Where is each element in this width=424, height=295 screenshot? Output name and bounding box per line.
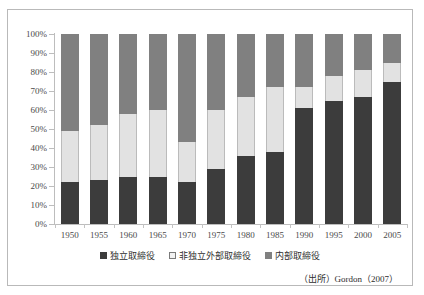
y-axis-label: 100% [26,29,47,39]
bar-segment-nonindependent-outside [90,125,108,180]
bar-segment-nonindependent-outside [354,70,372,97]
y-tick [49,224,54,225]
bar-column [207,34,225,224]
x-tick [55,224,56,228]
y-axis-label: 20% [31,181,48,191]
x-tick [231,224,232,228]
bar-column [119,34,137,224]
bar-segment-independent [295,108,313,224]
bar-column [325,34,343,224]
x-tick [319,224,320,228]
bar-segment-independent [237,156,255,224]
bar-segment-inside [178,34,196,142]
legend-swatch-icon [100,252,107,259]
bar-segment-nonindependent-outside [149,110,167,177]
chart-frame: 0%10%20%30%40%50%60%70%80%90%100% 195019… [7,9,413,286]
bar-segment-independent [383,82,401,225]
y-tick [49,72,54,73]
y-tick [49,34,54,35]
bar-segment-independent [90,180,108,224]
y-axis-label: 30% [31,162,48,172]
y-axis-label: 0% [35,219,47,229]
source-note: （出所）Gordon（2007） [299,272,399,285]
bar-segment-inside [354,34,372,70]
y-tick [49,91,54,92]
x-axis-label: 2000 [348,230,377,241]
bar-segment-independent [354,97,372,224]
bar-segment-inside [237,34,255,97]
bar-segment-inside [266,34,284,87]
y-tick [49,110,54,111]
x-axis-label: 1995 [319,230,348,241]
bar-column [295,34,313,224]
legend-item-independent[interactable]: 独立取締役 [100,249,155,262]
bar-segment-inside [61,34,79,131]
y-tick [49,148,54,149]
x-tick [290,224,291,228]
y-axis-label: 60% [31,105,48,115]
legend-label: 独立取締役 [110,249,155,262]
bar-segment-independent [178,182,196,224]
bar-segment-nonindependent-outside [325,76,343,101]
x-axis-label: 1950 [55,230,84,241]
bar-segment-nonindependent-outside [295,87,313,108]
x-axis-label: 1980 [231,230,260,241]
legend-swatch-icon [265,252,272,259]
x-axis-label: 2005 [378,230,407,241]
bar-segment-independent [207,169,225,224]
x-tick [202,224,203,228]
y-tick [49,186,54,187]
plot-area [55,34,407,224]
x-tick [143,224,144,228]
bar-segment-independent [149,177,167,225]
y-axis-label: 70% [31,86,48,96]
bar-segment-nonindependent-outside [119,114,137,177]
y-axis-label: 50% [31,124,48,134]
bar-segment-inside [207,34,225,110]
legend-item-nonindependent_outside[interactable]: 非独立外部取締役 [169,249,251,262]
y-tick [49,205,54,206]
chart-page: 0%10%20%30%40%50%60%70%80%90%100% 195019… [0,0,424,295]
bar-segment-inside [90,34,108,125]
y-axis-label: 40% [31,143,48,153]
bar-column [178,34,196,224]
bar-segment-independent [119,177,137,225]
y-axis-label: 80% [31,67,48,77]
x-tick [348,224,349,228]
x-axis-label: 1960 [114,230,143,241]
bar-column [237,34,255,224]
y-tick [49,129,54,130]
x-axis-label: 1970 [172,230,201,241]
y-tick [49,53,54,54]
x-axis-label: 1975 [202,230,231,241]
x-axis-label: 1990 [290,230,319,241]
bar-segment-nonindependent-outside [178,142,196,182]
bar-column [383,34,401,224]
legend-item-inside[interactable]: 内部取締役 [265,249,320,262]
bar-column [90,34,108,224]
bar-segment-nonindependent-outside [207,110,225,169]
legend-label: 非独立外部取締役 [179,249,251,262]
bar-segment-independent [61,182,79,224]
bar-segment-inside [383,34,401,63]
bar-column [61,34,79,224]
x-axis-label: 1955 [84,230,113,241]
bar-segment-inside [119,34,137,114]
bar-segment-nonindependent-outside [266,87,284,152]
x-tick [172,224,173,228]
x-tick [84,224,85,228]
y-axis-label: 10% [31,200,48,210]
bar-segment-independent [266,152,284,224]
bar-column [354,34,372,224]
x-axis-label: 1965 [143,230,172,241]
x-tick [260,224,261,228]
bar-column [149,34,167,224]
bar-segment-inside [295,34,313,87]
y-axis-label: 90% [31,48,48,58]
y-tick [49,167,54,168]
x-tick [378,224,379,228]
legend-label: 内部取締役 [275,249,320,262]
bar-segment-independent [325,101,343,225]
bar-segment-nonindependent-outside [383,63,401,82]
bar-segment-nonindependent-outside [61,131,79,182]
